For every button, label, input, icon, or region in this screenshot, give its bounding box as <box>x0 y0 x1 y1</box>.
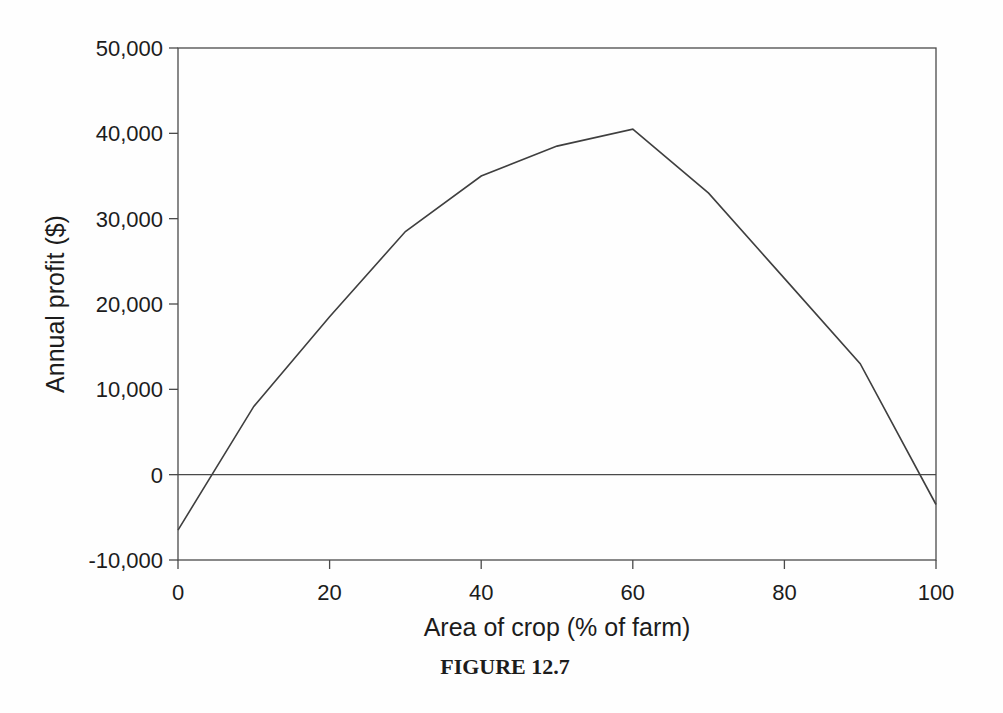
figure-page: 50,00040,00030,00020,00010,0000-10,00002… <box>0 0 1003 713</box>
y-tick-label: 0 <box>151 463 163 488</box>
profit-line <box>178 129 936 530</box>
x-tick-label: 20 <box>317 580 341 605</box>
y-tick-label: 20,000 <box>96 292 163 317</box>
plot-frame <box>178 48 936 560</box>
x-axis-title: Area of crop (% of farm) <box>424 613 691 641</box>
y-tick-label: 10,000 <box>96 377 163 402</box>
y-tick-label: 40,000 <box>96 121 163 146</box>
y-tick-label: 50,000 <box>96 36 163 61</box>
profit-curve-chart: 50,00040,00030,00020,00010,0000-10,00002… <box>0 0 1003 713</box>
chart-plot-area: 50,00040,00030,00020,00010,0000-10,00002… <box>88 36 954 605</box>
figure-caption: FIGURE 12.7 <box>440 654 570 679</box>
x-tick-label: 40 <box>469 580 493 605</box>
y-axis-title: Annual profit ($) <box>41 215 69 393</box>
x-tick-label: 60 <box>621 580 645 605</box>
x-tick-label: 0 <box>172 580 184 605</box>
y-tick-label: 30,000 <box>96 207 163 232</box>
x-tick-label: 80 <box>772 580 796 605</box>
y-tick-label: -10,000 <box>88 548 163 573</box>
x-tick-label: 100 <box>918 580 955 605</box>
